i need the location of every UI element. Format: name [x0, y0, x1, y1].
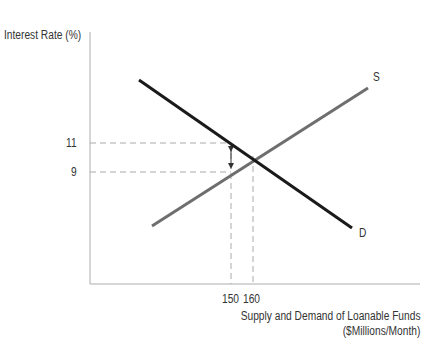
loanable-funds-chart [0, 0, 438, 344]
y-axis-label: Interest Rate (%) [4, 28, 81, 42]
demand-label: D [359, 226, 366, 240]
x-tick-150: 150 [222, 292, 239, 306]
y-tick-9: 9 [71, 165, 77, 179]
x-axis-label-line2: ($Millions/Month) [342, 324, 420, 338]
x-axis-label-line1: Supply and Demand of Loanable Funds [240, 309, 420, 323]
y-tick-11: 11 [66, 136, 77, 150]
supply-label: S [373, 70, 380, 84]
demand-curve [139, 80, 352, 228]
supply-curve [152, 88, 368, 226]
x-tick-160: 160 [243, 292, 260, 306]
